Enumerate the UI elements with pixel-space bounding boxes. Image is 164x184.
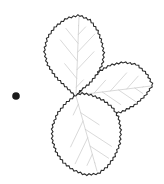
leaf-illustration	[0, 0, 164, 184]
leaflet-bottom	[51, 93, 121, 176]
page	[0, 0, 164, 184]
bullet-point-icon	[12, 92, 20, 100]
